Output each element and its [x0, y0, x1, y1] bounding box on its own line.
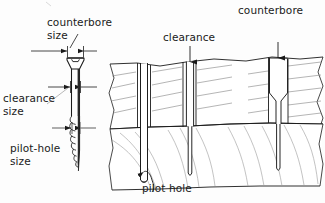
screw-head [67, 58, 84, 69]
screw-threads [70, 116, 78, 167]
screw-core [78, 116, 80, 171]
label-pilot-hole-size: pilot-hole size [10, 142, 60, 167]
label-clearance-size: clearance size [3, 92, 55, 117]
label-counterbore: counterbore [238, 4, 303, 17]
label-clearance: clearance [163, 31, 215, 44]
screw-shank [72, 69, 80, 116]
label-pilot-hole: pilot hole [142, 182, 192, 195]
scan-artifact [46, 2, 51, 6]
label-counterbore-size: counterbore size [47, 16, 112, 41]
figure-canvas: counterbore size clearance size pilot-ho… [0, 0, 325, 203]
